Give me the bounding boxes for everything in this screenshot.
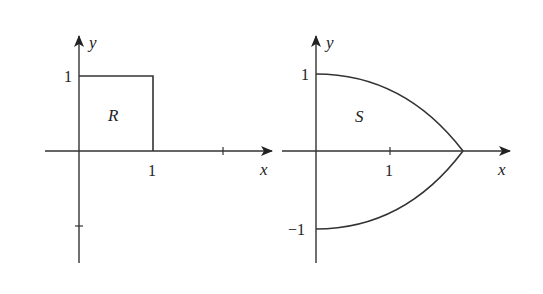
right-panel: S y x 1 1 −1 bbox=[282, 33, 510, 263]
region-r-label: R bbox=[107, 106, 119, 125]
left-x-axis-label: x bbox=[259, 160, 268, 179]
right-x-axis-label: x bbox=[497, 160, 506, 179]
right-y-tick-bottom-label: −1 bbox=[288, 221, 305, 238]
region-s-label: S bbox=[355, 107, 364, 126]
diagram-canvas: R y x 1 1 S y x 1 1 −1 bbox=[0, 0, 543, 294]
region-s-upper-curve bbox=[316, 74, 463, 151]
figure: R y x 1 1 S y x 1 1 −1 bbox=[0, 0, 543, 294]
left-y-axis-label: y bbox=[87, 33, 97, 52]
left-panel: R y x 1 1 bbox=[45, 33, 272, 263]
right-x-tick-label: 1 bbox=[385, 162, 393, 179]
right-y-tick-top-label: 1 bbox=[301, 66, 309, 83]
right-y-axis-label: y bbox=[324, 33, 334, 52]
left-y-tick-label: 1 bbox=[64, 68, 72, 85]
left-x-tick-label: 1 bbox=[148, 162, 156, 179]
